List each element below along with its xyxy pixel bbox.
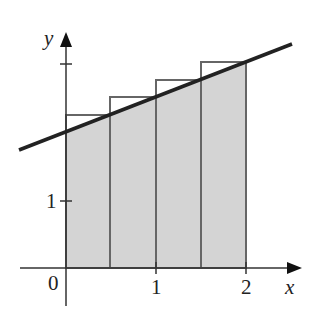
x-tick-label-2: 2: [241, 275, 252, 299]
y-axis-arrow-icon: [60, 32, 72, 47]
y-tick-label-1: 1: [46, 189, 57, 213]
riemann-sum-figure: y x 0 1 2 1: [0, 0, 313, 317]
x-axis-label: x: [284, 275, 295, 299]
y-axis-label: y: [42, 26, 54, 50]
x-tick-label-1: 1: [151, 275, 162, 299]
x-tick-label-0: 0: [48, 271, 59, 295]
x-axis-arrow-icon: [287, 262, 302, 274]
